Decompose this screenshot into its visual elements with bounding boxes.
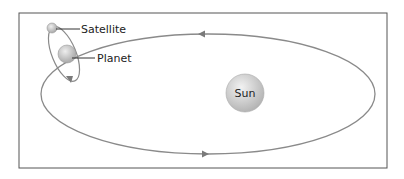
sun-label: Sun [235, 87, 256, 100]
satellite-label: Satellite [81, 23, 126, 36]
orbit-arrow-bottom [202, 151, 209, 158]
planet-orbit [41, 34, 375, 154]
satellite [47, 23, 57, 33]
planet [58, 45, 76, 63]
orbit-arrow-top [198, 31, 205, 38]
orbit-diagram: Sun Planet Satellite [0, 0, 404, 179]
planet-label: Planet [97, 52, 132, 65]
